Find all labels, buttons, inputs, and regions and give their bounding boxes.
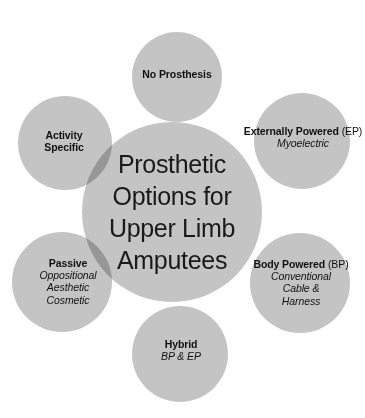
diagram-circles — [0, 0, 365, 418]
prosthetic-options-diagram: Prosthetic Options for Upper Limb Ampute… — [0, 0, 365, 418]
satellite-circle-hybrid — [132, 306, 228, 402]
satellite-circle-no-prosthesis — [132, 32, 222, 122]
satellite-circle-externally-powered — [254, 93, 350, 189]
satellite-circle-activity-specific — [18, 96, 112, 190]
satellite-circle-passive — [12, 232, 112, 332]
satellite-circle-body-powered — [250, 233, 350, 333]
